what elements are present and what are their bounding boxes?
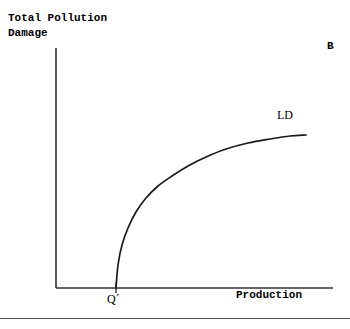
ld-curve (116, 135, 306, 288)
plot-area (0, 0, 350, 329)
bottom-divider (0, 318, 350, 319)
panel-label-b: B (327, 40, 334, 52)
y-axis-title: Total Pollution Damage (8, 11, 107, 41)
x-tick-label-q-prime: Q´ (107, 292, 120, 307)
x-axis-title: Production (236, 288, 302, 303)
pollution-damage-figure: Total Pollution Damage Production B LD Q… (0, 0, 350, 329)
curve-label-ld: LD (277, 108, 293, 123)
